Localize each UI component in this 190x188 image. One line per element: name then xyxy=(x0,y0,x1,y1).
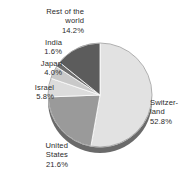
pie-chart: Switzerland 52.8%United States 21.6%Isra… xyxy=(0,0,190,188)
slice-label-india: India 1.6% xyxy=(14,38,62,57)
slice-label-rest-of-the-world: Rest of the world 14.2% xyxy=(14,7,84,35)
slice-label-israel: Israel 5.8% xyxy=(6,83,54,102)
pie-slice-united-states[interactable]: United States 21.6% xyxy=(48,95,100,146)
pie-slice-group: Switzerland 52.8%United States 21.6%Isra… xyxy=(48,43,152,147)
slice-label-switzerland: Switzer- land 52.8% xyxy=(150,98,190,126)
slice-label-japan: Japan 4.0% xyxy=(14,59,62,78)
slice-label-united-states: United States 21.6% xyxy=(20,141,68,169)
